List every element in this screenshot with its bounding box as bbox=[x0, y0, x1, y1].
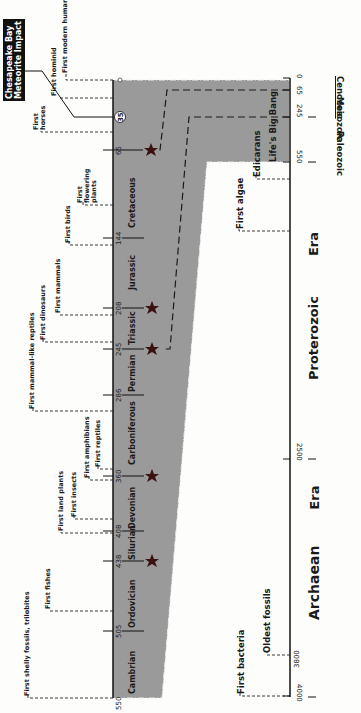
eon-archaean: ArchaeanEra bbox=[306, 486, 322, 620]
event-first-bacteria: First bacteria bbox=[236, 629, 246, 694]
event-first-mammals: First mammals bbox=[55, 259, 62, 313]
era-tick-4000: 4000 bbox=[295, 684, 303, 702]
tick-245: 245 bbox=[115, 343, 123, 356]
event-first-hominid: First hominid bbox=[51, 47, 58, 96]
event-first-reptiles: First reptiles bbox=[95, 420, 102, 467]
period-cretaceous: Cretaceous bbox=[128, 177, 137, 228]
tick-505: 505 bbox=[115, 625, 123, 638]
tick-65: 65 bbox=[115, 146, 123, 155]
tick-208: 208 bbox=[115, 302, 123, 315]
event-lifes-big-bang: Life's Big Bang bbox=[268, 91, 278, 162]
era-tick-65: 65 bbox=[295, 86, 303, 95]
event-first-amphibians: First amphibians bbox=[84, 416, 91, 478]
event-first-dinosaurs: First dinosaurs bbox=[40, 285, 47, 340]
tick-144: 144 bbox=[115, 232, 123, 245]
era-paleozoic: Paleozoic bbox=[335, 131, 345, 176]
era-tick-0: 0 bbox=[295, 74, 303, 78]
event-first-horses: First horses bbox=[33, 102, 47, 130]
impact-marker-label: 35 bbox=[117, 112, 125, 122]
event-first-mammal-like-reptiles: First mammal-like reptiles bbox=[29, 312, 36, 409]
tick-438: 438 bbox=[115, 555, 123, 568]
era-tick-245: 245 bbox=[295, 104, 303, 117]
event-first-fishes: First fishes bbox=[45, 568, 52, 609]
event-first-land-plants: First land plants bbox=[58, 471, 65, 531]
tick-550: 550 bbox=[115, 697, 123, 710]
tick-360: 360 bbox=[115, 470, 123, 483]
period-permian: Permian bbox=[128, 355, 137, 392]
tick-408: 408 bbox=[115, 525, 123, 538]
eon-proterozoic: ProterozoicEra bbox=[306, 232, 321, 380]
period-carboniferous: Carboniferous bbox=[128, 401, 137, 465]
event-first-shelly-fossils: First shelly fossils, trilobites bbox=[24, 591, 31, 696]
chesapeake-impact-title: Chesapeake Bay Meteorite Impact bbox=[3, 19, 25, 101]
period-silurian: Silurian bbox=[128, 525, 137, 560]
era-tick-550: 550 bbox=[295, 150, 303, 163]
event-oldest-fossils: Oldest fossils bbox=[262, 588, 272, 653]
period-cambrian: Cambrian bbox=[128, 651, 137, 694]
event-first-modern-human: First modern human bbox=[62, 0, 69, 73]
period-devonian: Devonian bbox=[128, 487, 137, 529]
period-ordovician: Ordovician bbox=[128, 579, 137, 628]
event-first-flowering-plants: First flowering plants bbox=[77, 163, 98, 203]
event-edicarans: Edicarans bbox=[252, 130, 262, 177]
period-jurassic: Jurassic bbox=[128, 255, 137, 290]
event-first-insects: First insects bbox=[71, 472, 78, 517]
era-tick-3800: 3800 bbox=[293, 650, 301, 668]
era-tick-2500: 2500 bbox=[295, 443, 303, 461]
event-first-algae: First algae bbox=[235, 178, 245, 229]
event-first-birds: First birds bbox=[65, 205, 72, 243]
period-triassic: Triassic bbox=[128, 311, 137, 345]
tick-286: 286 bbox=[115, 389, 123, 402]
